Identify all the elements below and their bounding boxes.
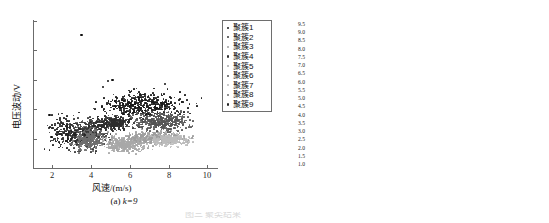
y-tick-label-b: 3.0	[265, 128, 305, 135]
legend-item[interactable]: 聚簇5	[225, 61, 268, 71]
panel-b: 1.01.52.02.53.03.54.04.55.05.56.06.57.07…	[275, 0, 549, 223]
y-tick-label-b: 7.0	[265, 62, 305, 69]
figure-clustering-results: 0246810246810 电压波动/V 风速/(m/s) (a) k=9 聚簇…	[0, 0, 549, 223]
legend-item[interactable]: 聚簇6	[225, 71, 268, 81]
panel-caption-a-prefix: (a)	[111, 196, 121, 206]
y-tick-label-b: 5.0	[265, 95, 305, 102]
y-axis-line-a	[33, 20, 34, 169]
legend-item[interactable]: 聚簇7	[225, 81, 268, 91]
legend-item[interactable]: 聚簇9	[225, 100, 268, 110]
legend-item[interactable]: 聚簇8	[225, 90, 268, 100]
x-tick-a	[207, 165, 208, 168]
y-tick-label-b: 8.0	[265, 46, 305, 53]
legend-item-label: 聚簇6	[231, 71, 253, 80]
y-axis-title-a: 电压波动/V	[10, 84, 23, 129]
legend-item-label: 聚簇7	[231, 81, 253, 90]
legend-item[interactable]: 聚簇1	[225, 23, 268, 33]
legend-item-label: 聚簇4	[231, 52, 253, 61]
y-tick-label-b: 8.5	[265, 37, 305, 44]
x-tick-a	[130, 165, 131, 168]
x-tick-label-a: 2	[40, 171, 64, 180]
legend-item-label: 聚簇2	[231, 33, 253, 42]
scatter-points-a	[33, 21, 215, 168]
legend-item-label: 聚簇9	[231, 100, 253, 109]
x-tick-a	[169, 165, 170, 168]
y-tick-label-b: 5.5	[265, 87, 305, 94]
footer-partial-text: 图三 聚类结果	[0, 212, 549, 223]
y-tick-label-b: 1.5	[265, 153, 305, 160]
y-tick-label-b: 6.0	[265, 79, 305, 86]
legend-item[interactable]: 聚簇4	[225, 52, 268, 62]
legend-item[interactable]: 聚簇2	[225, 33, 268, 43]
panel-caption-a-param: k=9	[123, 196, 138, 206]
y-tick-a	[34, 21, 37, 22]
x-axis-line-a	[33, 168, 218, 169]
y-tick-label-b: 2.5	[265, 136, 305, 143]
x-tick-label-a: 4	[79, 171, 103, 180]
x-tick-label-a: 10	[195, 171, 219, 180]
y-tick-a	[34, 139, 37, 140]
y-tick-label-b: 1.0	[265, 161, 305, 168]
y-tick-label-b: 9.5	[265, 21, 305, 28]
legend-item-label: 聚簇3	[231, 42, 253, 51]
y-tick-a	[34, 168, 37, 169]
y-tick-label-b: 6.5	[265, 70, 305, 77]
y-tick-label-b: 4.0	[265, 112, 305, 119]
x-axis-title-a: 风速/(m/s)	[92, 181, 132, 194]
y-tick-a	[34, 109, 37, 110]
y-tick-label-b: 2.0	[265, 145, 305, 152]
y-tick-label-b: 4.5	[265, 103, 305, 110]
y-tick-a	[34, 80, 37, 81]
x-tick-label-a: 6	[118, 171, 142, 180]
y-tick-label-b: 9.0	[265, 29, 305, 36]
x-tick-label-a: 8	[157, 171, 181, 180]
legend-item-label: 聚簇5	[231, 62, 253, 71]
legend-item[interactable]: 聚簇3	[225, 42, 268, 52]
panel-a: 0246810246810 电压波动/V 风速/(m/s) (a) k=9 聚簇…	[0, 0, 275, 223]
x-tick-a	[91, 165, 92, 168]
panel-caption-a: (a) k=9	[84, 196, 164, 206]
y-tick-a	[34, 50, 37, 51]
legend-item-label: 聚簇8	[231, 90, 253, 99]
y-tick-label-b: 7.5	[265, 54, 305, 61]
y-tick-label-b: 3.5	[265, 120, 305, 127]
x-tick-a	[52, 165, 53, 168]
footer-partial-label: 图三 聚类结果	[185, 212, 241, 220]
legend-item-label: 聚簇1	[231, 23, 253, 32]
